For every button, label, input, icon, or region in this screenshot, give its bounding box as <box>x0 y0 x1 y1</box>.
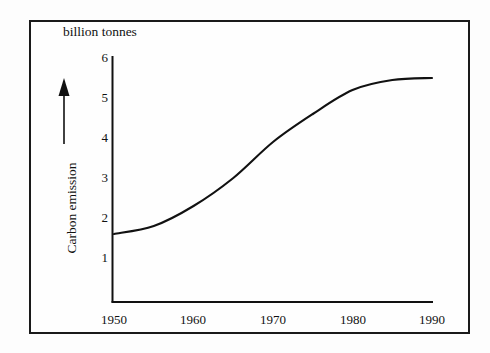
data-series-line <box>114 78 432 234</box>
x-tick-label-1970: 1970 <box>251 313 295 326</box>
y-tick-label-6: 6 <box>90 51 108 64</box>
x-tick-label-1950: 1950 <box>92 313 136 326</box>
x-tick-label-1990: 1990 <box>410 313 454 326</box>
chart-figure: billion tonnes Carbon emission 6 5 4 3 2… <box>0 0 490 353</box>
y-axis-arrow-icon <box>59 78 70 144</box>
y-tick-label-1: 1 <box>90 251 108 264</box>
y-tick-label-3: 3 <box>90 171 108 184</box>
y-tick-label-5: 5 <box>90 91 108 104</box>
y-tick-label-4: 4 <box>90 131 108 144</box>
x-tick-label-1960: 1960 <box>171 313 215 326</box>
x-tick-label-1980: 1980 <box>331 313 375 326</box>
chart-plot-area <box>0 0 490 353</box>
y-tick-label-2: 2 <box>90 211 108 224</box>
